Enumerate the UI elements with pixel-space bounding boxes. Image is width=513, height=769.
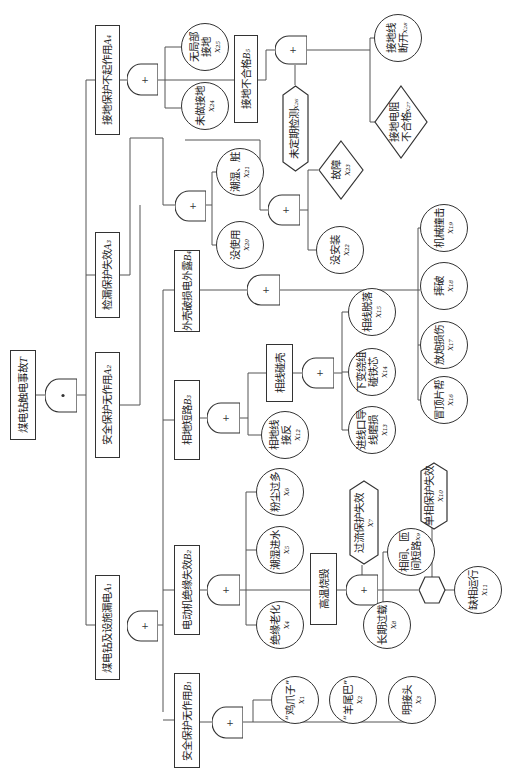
condition-x26: 未定期检测x₂₆	[282, 85, 309, 172]
or-gate-b4: +	[247, 274, 280, 306]
svg-text:+: +	[360, 585, 368, 595]
or-gate-a3: +	[175, 190, 206, 222]
basic-event-x12: 相地线接反x₁₂	[261, 411, 309, 459]
undeveloped-event-x27: 接地电阻不合格x₂₇	[374, 85, 428, 159]
or-gate-b1: +	[212, 706, 243, 739]
basic-event-x21: 潮湿、脏x₂₁	[216, 148, 264, 196]
or-gate-b2: +	[207, 574, 240, 606]
or-gate-a2: +	[268, 194, 300, 226]
basic-event-x2: “羊尾巴”x₂	[329, 676, 377, 724]
svg-text:+: +	[289, 45, 297, 55]
event-a4-box: 接地保护不起作用A₄	[95, 25, 120, 135]
fault-tree-diagram: + + + + + + + + + + +	[0, 0, 513, 769]
svg-text:+: +	[189, 201, 197, 211]
event-b3-box: 相地短路B₃	[174, 380, 200, 460]
event-b4-box: 外壳破损电外露B₄	[174, 250, 200, 332]
inhibit-gate	[418, 576, 446, 604]
svg-text:+: +	[262, 285, 270, 295]
undeveloped-event-x23: 故障x₂₃	[318, 140, 364, 200]
svg-text:+: +	[141, 75, 149, 85]
basic-event-x19: 机械撞击x₁₉	[420, 204, 468, 252]
or-gate-a4: +	[127, 63, 158, 96]
basic-event-x25: 无局部接地x₂₅	[181, 23, 229, 71]
svg-text:+: +	[141, 621, 149, 631]
or-gate-b3: +	[207, 402, 240, 434]
event-a3-box: 检漏保护失效A₃	[95, 232, 120, 318]
event-b1-box: 安全保护无作用B₁	[174, 673, 200, 768]
or-gate-shell: +	[302, 357, 334, 389]
basic-event-x1: “鸡爪子”x₁	[271, 676, 319, 724]
basic-event-x14: 下变绕组碰铁芯x₁₄	[348, 348, 396, 396]
svg-text:+: +	[222, 585, 230, 595]
svg-text:+: +	[316, 368, 324, 378]
basic-event-x3: 明接头x₃	[388, 676, 436, 724]
event-high-temp-box: 高温烧毁	[310, 553, 337, 625]
condition-x7: 过流保护失效x₇	[349, 480, 379, 565]
basic-event-x16: 冒顶片帮x₁₆	[420, 376, 468, 424]
basic-event-x20: 没使用x₂₀	[216, 221, 264, 269]
basic-event-x8: 长期过载x₈	[363, 601, 411, 649]
basic-event-x4: 绝缘老化x₄	[256, 601, 304, 649]
basic-event-x28: 接地线断开x₂₈	[374, 14, 422, 62]
basic-event-x22: 没安装x₂₂	[316, 226, 364, 274]
svg-text:+: +	[222, 413, 230, 423]
or-gate-a1: +	[127, 610, 158, 642]
basic-event-x6: 粉尘过多x₆	[256, 468, 304, 516]
basic-event-x13: 进线口导线磨损x₁₃	[348, 406, 396, 454]
svg-text:+: +	[226, 718, 234, 728]
basic-event-x18: 摔破x₁₈	[420, 262, 468, 310]
and-gate-t	[45, 378, 77, 413]
event-a1-box: 煤电钻及设施漏电A₁	[95, 575, 120, 680]
condition-x10: 单相保护失效x₁₀	[420, 462, 448, 530]
svg-text:+: +	[282, 205, 290, 215]
basic-event-x24: 未做接地x₂₄	[181, 82, 229, 130]
basic-event-x17: 放炮损伤x₁₇	[420, 321, 468, 369]
basic-event-x9: 相间、匝间短路x₉	[387, 528, 435, 576]
event-b2-box: 电动机绝缘失效B₂	[174, 545, 200, 635]
event-shell-contact-box: 相线碰壳	[266, 344, 293, 402]
or-gate-hot: +	[346, 574, 378, 606]
basic-event-x15: 相线脱落x₁₅	[348, 288, 396, 336]
basic-event-x5: 潮湿进水x₅	[256, 526, 304, 574]
basic-event-x11: 缺相运行x₁₁	[454, 566, 502, 614]
or-gate-b5: +	[275, 35, 307, 65]
event-a2-box: 安全保护无作用A₂	[95, 352, 120, 458]
top-event-box: 煤电钻触电事故T	[10, 350, 36, 440]
event-b5-box: 接地不合格B₅	[234, 35, 258, 123]
